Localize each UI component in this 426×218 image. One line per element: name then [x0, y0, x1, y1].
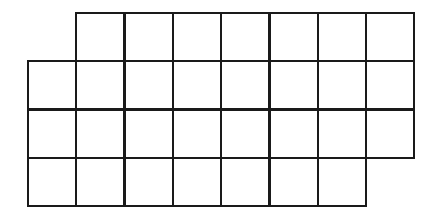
grid-cell-r1-c2 [75, 12, 125, 62]
grid-cell-r3-c6 [269, 109, 319, 159]
grid-cell-r1-c6 [269, 12, 319, 62]
grid-cell-r2-c4 [172, 60, 222, 110]
staggered-grid-diagram [0, 0, 426, 218]
grid-cell-r2-c3 [124, 60, 174, 110]
grid-cell-r2-c6 [269, 60, 319, 110]
grid-cell-r4-c5 [220, 157, 270, 207]
grid-cell-r3-c7 [317, 109, 367, 159]
grid-cell-r2-c2 [75, 60, 125, 110]
grid-cell-r2-c8 [365, 60, 415, 110]
grid-cell-r3-c2 [75, 109, 125, 159]
grid-cell-r4-c1 [27, 157, 77, 207]
grid-cell-r1-c5 [220, 12, 270, 62]
grid-cell-r1-c7 [317, 12, 367, 62]
grid-cell-r4-c2 [75, 157, 125, 207]
grid-cell-r4-c6 [269, 157, 319, 207]
grid-cell-r1-c4 [172, 12, 222, 62]
grid-cell-r1-c3 [124, 12, 174, 62]
grid-cell-r4-c3 [124, 157, 174, 207]
grid-cell-r4-c7 [317, 157, 367, 207]
grid-cell-r3-c4 [172, 109, 222, 159]
grid-cell-r2-c1 [27, 60, 77, 110]
grid-cell-r2-c5 [220, 60, 270, 110]
grid-cell-r1-c8 [365, 12, 415, 62]
grid-cell-r2-c7 [317, 60, 367, 110]
grid-cell-r3-c1 [27, 109, 77, 159]
grid-cell-r3-c5 [220, 109, 270, 159]
grid-cell-r3-c3 [124, 109, 174, 159]
grid-cell-r3-c8 [365, 109, 415, 159]
grid-cell-r4-c4 [172, 157, 222, 207]
